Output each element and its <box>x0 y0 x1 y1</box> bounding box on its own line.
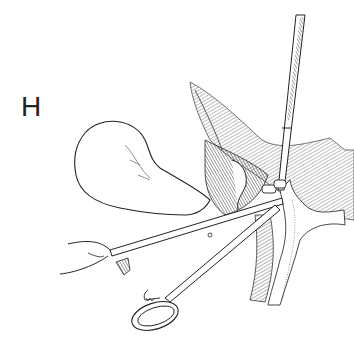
gallbladder <box>75 121 210 215</box>
hemostat-forceps <box>60 198 283 336</box>
surgical-illustration <box>0 0 354 347</box>
illustration-canvas: H <box>0 0 354 347</box>
